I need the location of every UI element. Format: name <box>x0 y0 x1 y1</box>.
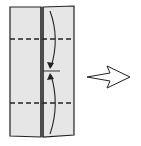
fold-step-illustration <box>0 0 141 146</box>
next-step-arrow-icon <box>87 66 130 88</box>
paper-left-panel <box>10 7 41 137</box>
origami-diagram <box>0 0 141 146</box>
paper-right-panel <box>43 6 74 137</box>
